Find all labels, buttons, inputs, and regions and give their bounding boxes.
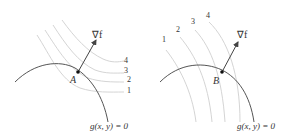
gradient-label-left: ∇f xyxy=(91,29,103,40)
level-curve-2 xyxy=(180,37,212,122)
gradient-arrow-right xyxy=(222,42,238,72)
point-b-dot xyxy=(220,70,224,74)
constraint-label-left: g(x, y) = 0 xyxy=(90,121,129,131)
level-label-1-right: 1 xyxy=(162,35,166,44)
level-label-2-right: 2 xyxy=(176,25,180,34)
level-label-4-right: 4 xyxy=(206,11,210,20)
constraint-label-right: g(x, y) = 0 xyxy=(237,121,276,131)
point-b-label: B xyxy=(213,75,219,86)
right-panel: B ∇f 1 2 3 4 g(x, y) = 0 xyxy=(160,11,276,131)
gradient-label-right: ∇f xyxy=(236,29,248,40)
level-curve-4 xyxy=(209,22,240,122)
level-label-3-right: 3 xyxy=(191,17,195,26)
level-curves-left xyxy=(37,20,124,92)
gradient-arrow-left xyxy=(78,40,96,72)
level-curves-right xyxy=(166,22,240,122)
level-curve-2 xyxy=(45,30,124,82)
level-label-2-left: 2 xyxy=(127,75,131,84)
level-label-4-left: 4 xyxy=(124,56,128,65)
level-curve-4 xyxy=(62,20,124,62)
level-curve-1 xyxy=(166,50,196,122)
point-a-dot xyxy=(76,70,80,74)
level-label-1-left: 1 xyxy=(127,86,131,95)
left-panel: A ∇f 4 3 2 1 g(x, y) = 0 xyxy=(15,20,131,131)
point-a-label: A xyxy=(69,74,77,85)
level-label-3-left: 3 xyxy=(124,66,128,75)
constraint-curve-left xyxy=(15,64,108,122)
lagrange-diagram: A ∇f 4 3 2 1 g(x, y) = 0 B ∇f 1 2 3 4 g(… xyxy=(0,0,294,140)
